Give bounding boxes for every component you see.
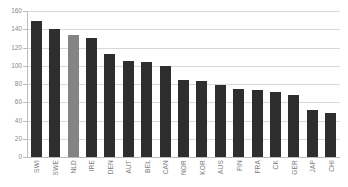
y-tick-label: 0 (0, 154, 22, 160)
x-label-swe: SWE (51, 160, 58, 175)
x-label-chi: CHI (327, 160, 334, 172)
y-tick-label: 80 (0, 81, 22, 87)
bar-slot (27, 11, 45, 157)
bar-slot (174, 11, 192, 157)
bar-slot (156, 11, 174, 157)
x-label-slot: KOR (193, 159, 211, 187)
bar-slot (322, 11, 340, 157)
x-label-slot: JAP (303, 159, 321, 187)
x-label-bel: BEL (143, 160, 150, 173)
x-axis-line (27, 157, 340, 158)
x-label-slot: CK (266, 159, 284, 187)
bar-jap[interactable] (307, 110, 318, 157)
bar-slot (45, 11, 63, 157)
y-tick-label: 100 (0, 63, 22, 69)
x-label-nld: NLD (70, 160, 77, 174)
bar-den[interactable] (104, 54, 115, 157)
y-tick-label: 160 (0, 8, 22, 14)
x-label-can: CAN (162, 160, 169, 174)
y-tick-label: 40 (0, 118, 22, 124)
y-tick-mark (23, 157, 27, 158)
x-label-slot: SWE (45, 159, 63, 187)
x-label-ire: IRE (88, 160, 95, 171)
x-label-slot: AUT (119, 159, 137, 187)
bar-slot (229, 11, 247, 157)
bar-ger[interactable] (288, 95, 299, 157)
x-axis-labels: SWISWENLDIREDENAUTBELCANNORKORAUSFINFRAC… (27, 159, 340, 187)
x-label-fra: FRA (254, 160, 261, 174)
bar-slot (266, 11, 284, 157)
x-label-fin: FIN (235, 160, 242, 171)
bar-slot (285, 11, 303, 157)
x-label-swi: SWI (33, 160, 40, 173)
x-label-slot: DEN (101, 159, 119, 187)
bar-slot (64, 11, 82, 157)
x-label-slot: CHI (322, 159, 340, 187)
bar-fin[interactable] (233, 89, 244, 157)
bar-fra[interactable] (252, 90, 263, 157)
bar-kor[interactable] (196, 81, 207, 157)
bar-slot (248, 11, 266, 157)
x-label-aut: AUT (125, 160, 132, 174)
x-label-slot: NLD (64, 159, 82, 187)
bar-slot (193, 11, 211, 157)
bar-ck[interactable] (270, 92, 281, 157)
y-tick-label: 60 (0, 99, 22, 105)
x-label-ck: CK (272, 160, 279, 169)
x-label-slot: NOR (174, 159, 192, 187)
bar-bel[interactable] (141, 62, 152, 157)
bar-chart: 160 140 120 100 80 60 40 20 0 SWISWENLDI… (0, 0, 348, 187)
x-label-slot: FIN (229, 159, 247, 187)
bar-aut[interactable] (123, 61, 134, 157)
bar-slot (119, 11, 137, 157)
x-label-slot: FRA (248, 159, 266, 187)
bar-slot (137, 11, 155, 157)
y-tick-label: 20 (0, 136, 22, 142)
bar-slot (82, 11, 100, 157)
x-label-jap: JAP (309, 160, 316, 173)
x-label-slot: SWI (27, 159, 45, 187)
bar-aus[interactable] (215, 85, 226, 157)
bar-ire[interactable] (86, 38, 97, 157)
bar-chi[interactable] (325, 113, 336, 157)
chart-title (0, 0, 348, 1)
y-tick-label: 120 (0, 45, 22, 51)
x-label-kor: KOR (198, 160, 205, 175)
bar-slot (211, 11, 229, 157)
bar-slot (303, 11, 321, 157)
bar-swe[interactable] (49, 29, 60, 157)
x-label-slot: CAN (156, 159, 174, 187)
y-tick-label: 140 (0, 26, 22, 32)
bar-slot (101, 11, 119, 157)
bar-nor[interactable] (178, 80, 189, 157)
bar-can[interactable] (160, 66, 171, 157)
x-label-aus: AUS (217, 160, 224, 174)
x-label-ger: GER (290, 160, 297, 175)
x-label-slot: BEL (137, 159, 155, 187)
x-label-slot: IRE (82, 159, 100, 187)
bar-series (27, 11, 340, 157)
x-label-nor: NOR (180, 160, 187, 175)
x-label-den: DEN (106, 160, 113, 174)
bar-nld[interactable] (68, 35, 79, 157)
bar-swi[interactable] (31, 21, 42, 157)
x-label-slot: GER (285, 159, 303, 187)
x-label-slot: AUS (211, 159, 229, 187)
